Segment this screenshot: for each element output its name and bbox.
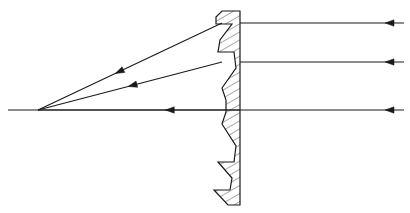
refracted-ray-middle-arrowhead (128, 81, 138, 87)
fresnel-lens-diagram (0, 0, 410, 213)
ray-top-arrowhead (385, 20, 394, 26)
refracted-ray-top (38, 23, 222, 110)
ray-middle-arrowhead (385, 59, 394, 65)
refracted-rays-group (38, 23, 240, 113)
refracted-ray-top-arrowhead (115, 67, 125, 74)
lens-hatch-fill (214, 11, 240, 205)
incoming-rays-group (240, 20, 404, 113)
fresnel-lens-group (214, 11, 240, 205)
refracted-ray-axis-arrowhead (165, 107, 174, 113)
ray-axis-arrowhead (385, 107, 394, 113)
optics-diagram-svg (0, 0, 410, 213)
